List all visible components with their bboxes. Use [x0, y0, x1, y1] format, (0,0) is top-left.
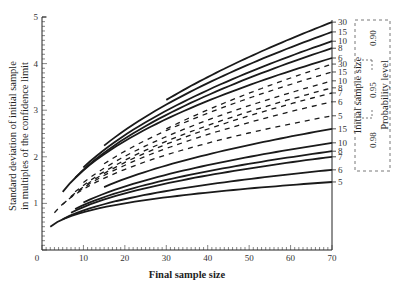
y-axis-title-line2: in multiples of the confidence limit — [19, 62, 30, 210]
initial-sample-size-label: 7 — [338, 152, 343, 162]
curve-p098-n8 — [75, 151, 332, 209]
initial-sample-size-label: 8 — [338, 43, 343, 53]
x-tick-label: 0 — [35, 253, 40, 263]
legend-prob-090: 0.90 — [368, 30, 378, 46]
chart-canvas: 12345010203040506070 3015108630151087651… — [0, 0, 403, 286]
x-tick-label: 40 — [203, 253, 213, 263]
legend-title: Probability level — [379, 60, 390, 130]
curve-p095-n30 — [166, 64, 332, 129]
y-tick-label: 5 — [34, 12, 39, 22]
y-tick-label: 3 — [34, 105, 39, 115]
initial-sample-size-label: 5 — [338, 177, 343, 187]
initial-sample-size-label: 5 — [338, 111, 343, 121]
y-tick-label: 1 — [34, 198, 39, 208]
initial-sample-size-label: 15 — [338, 124, 348, 134]
curve-p098-n10 — [83, 143, 332, 203]
initial-sample-size-label: 6 — [338, 97, 343, 107]
initial-sample-size-label: 6 — [338, 165, 343, 175]
right-axis-title: Initial sample size — [352, 56, 363, 133]
x-tick-label: 50 — [245, 253, 255, 263]
x-tick-label: 30 — [162, 253, 172, 263]
x-tick-label: 70 — [328, 253, 338, 263]
initial-sample-size-label: 30 — [338, 17, 348, 27]
axes: 12345010203040506070 — [34, 12, 338, 263]
x-axis-title: Final sample size — [149, 269, 226, 280]
legend-prob-098: 0.98 — [368, 132, 378, 148]
curve-p090-n15 — [104, 32, 332, 146]
legend-prob-095: 0.95 — [368, 82, 378, 98]
y-axis-title-line1: Standard deviation of initial sample — [7, 61, 18, 211]
right-axis-labels: 30151086301510876515108765 — [332, 17, 348, 187]
x-tick-label: 60 — [286, 253, 296, 263]
curves — [50, 22, 332, 227]
x-tick-label: 10 — [79, 253, 89, 263]
y-tick-label: 4 — [34, 59, 39, 69]
y-tick-label: 2 — [34, 152, 39, 162]
x-tick-label: 20 — [120, 253, 130, 263]
curve-p098-n15 — [104, 129, 332, 187]
